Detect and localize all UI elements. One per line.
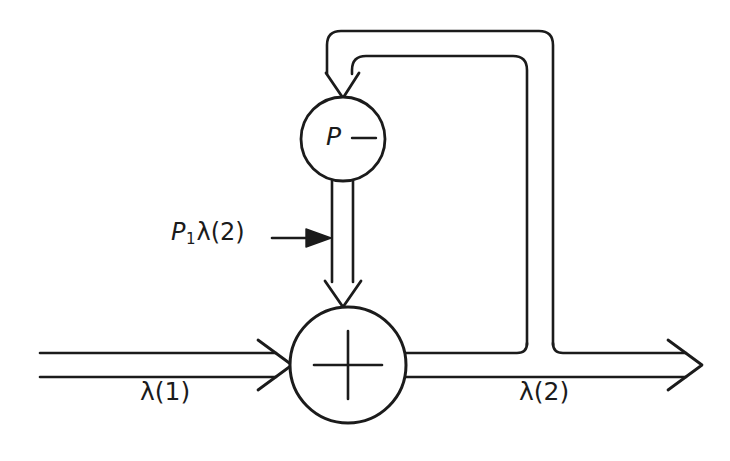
feedback-label-suffix: λ(2): [196, 218, 245, 246]
input-flow-label: λ(1): [140, 379, 190, 404]
diagram-canvas: λ(1) λ(2) P1λ(2) P: [0, 0, 730, 461]
p-to-sum-arrowhead-icon: [325, 281, 361, 307]
output-arrowhead-icon: [668, 340, 702, 390]
feedback-flow-connector: [326, 31, 553, 345]
p-block-label: P: [326, 124, 341, 149]
feedback-label-arrowhead-icon: [306, 229, 331, 247]
diagram-svg: [0, 0, 730, 461]
input-arrowhead-icon: [258, 340, 292, 390]
p-to-sum-connector: [325, 181, 361, 307]
feedback-arrowhead-icon: [326, 73, 359, 98]
feedback-flow-label: P1λ(2): [171, 220, 245, 247]
feedback-label-prefix: P: [171, 218, 185, 246]
feedback-inner-edge: [352, 56, 527, 345]
feedback-label-subscript: 1: [185, 230, 195, 248]
feedback-outer-edge: [327, 31, 553, 345]
output-line-top-left: [404, 343, 527, 353]
output-line-top-right: [553, 343, 686, 353]
feedback-label-pointer: [272, 229, 331, 247]
output-flow-label: λ(2): [519, 379, 569, 404]
